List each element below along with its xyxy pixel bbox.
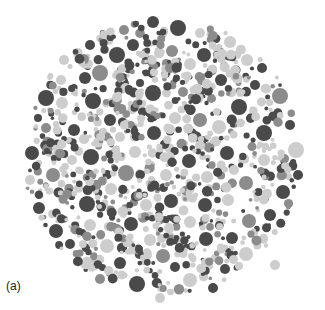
- plate-dot: [262, 149, 266, 153]
- plate-dot: [192, 41, 199, 48]
- plate-dot: [85, 93, 101, 109]
- plate-dot: [290, 178, 295, 183]
- plate-dot: [178, 87, 188, 97]
- plate-dot: [100, 39, 108, 47]
- plate-dot: [57, 140, 66, 149]
- plate-dot: [239, 153, 246, 160]
- plate-dot: [240, 240, 245, 245]
- plate-dot: [76, 228, 83, 235]
- plate-dot: [209, 277, 213, 281]
- plate-dot: [155, 48, 160, 53]
- plate-dot: [85, 176, 90, 181]
- plate-dot: [276, 219, 285, 228]
- plate-dot: [252, 190, 256, 194]
- plate-dot: [167, 158, 176, 167]
- plate-dot: [241, 209, 245, 213]
- plate-dot: [73, 49, 79, 55]
- plate-dot: [238, 162, 243, 167]
- plate-dot: [156, 232, 160, 236]
- plate-dot: [262, 175, 267, 180]
- plate-dot: [150, 68, 158, 76]
- plate-dot: [25, 146, 39, 160]
- plate-dot: [241, 90, 246, 95]
- plate-dot: [247, 75, 251, 79]
- plate-dot: [88, 116, 94, 122]
- plate-dot: [210, 140, 214, 144]
- plate-dot: [46, 168, 60, 182]
- plate-dot: [56, 97, 68, 109]
- plate-dot: [140, 88, 144, 92]
- plate-dot: [135, 170, 145, 180]
- plate-dot: [37, 179, 43, 185]
- plate-dot: [256, 125, 272, 141]
- plate-dot: [206, 158, 210, 162]
- plate-dot: [257, 167, 264, 174]
- plate-dot: [97, 231, 103, 237]
- plate-dot: [147, 55, 156, 64]
- plate-dot: [124, 36, 128, 40]
- plate-dot: [176, 174, 181, 179]
- plate-dot: [103, 99, 109, 105]
- plate-dot: [137, 114, 145, 122]
- plate-dot: [264, 107, 268, 111]
- plate-dot: [59, 88, 67, 96]
- plate-dot: [97, 204, 102, 209]
- plate-dot: [200, 266, 206, 272]
- plate-dot: [116, 73, 125, 82]
- plate-dot: [180, 169, 188, 177]
- plate-dot: [95, 117, 99, 121]
- plate-dot: [183, 273, 197, 287]
- plate-dot: [105, 183, 117, 195]
- plate-dot: [272, 88, 288, 104]
- plate-dot: [252, 151, 257, 156]
- plate-dot: [119, 25, 129, 35]
- plate-dot: [152, 272, 159, 279]
- plate-dot: [231, 219, 236, 224]
- plate-dot: [242, 214, 256, 228]
- plate-dot: [96, 108, 103, 115]
- plate-dot: [76, 215, 80, 219]
- plate-dot: [30, 189, 35, 194]
- plate-dot: [204, 101, 208, 105]
- plate-dot: [44, 148, 50, 154]
- plate-dot: [133, 21, 139, 27]
- plate-dot: [213, 59, 217, 63]
- plate-dot: [144, 169, 150, 175]
- plate-dot: [224, 135, 229, 140]
- plate-dot: [163, 82, 171, 90]
- plate-dot: [49, 82, 57, 90]
- plate-dot: [206, 135, 211, 140]
- plate-dot: [258, 57, 263, 62]
- plate-dot: [68, 85, 75, 92]
- plate-dot: [183, 124, 193, 134]
- plate-dot: [190, 262, 195, 267]
- plate-dot: [270, 84, 275, 89]
- plate-dot: [192, 84, 202, 94]
- plate-dot: [221, 236, 225, 240]
- plate-dot: [34, 114, 42, 122]
- plate-dot: [155, 293, 165, 303]
- plate-dot: [205, 258, 213, 266]
- plate-dot: [82, 232, 91, 241]
- plate-dot: [265, 95, 270, 100]
- plate-dot: [110, 127, 116, 133]
- plate-dot: [290, 159, 296, 165]
- plate-dot: [218, 90, 224, 96]
- plate-dot: [70, 172, 76, 178]
- plate-dot: [33, 106, 37, 110]
- plate-dot: [202, 186, 212, 196]
- plate-dot: [145, 216, 149, 220]
- plate-dot: [186, 181, 195, 190]
- plate-dot: [64, 218, 68, 222]
- plate-dot: [244, 132, 250, 138]
- plate-dot: [58, 113, 68, 123]
- plate-dot: [97, 133, 105, 141]
- plate-dot: [143, 267, 150, 274]
- plate-dot: [79, 134, 89, 144]
- plate-dot: [118, 206, 128, 216]
- plate-dot: [147, 16, 159, 28]
- figure-label: (a): [6, 279, 21, 293]
- plate-dot: [51, 116, 55, 120]
- plate-dot: [154, 213, 163, 222]
- plate-dot: [71, 191, 77, 197]
